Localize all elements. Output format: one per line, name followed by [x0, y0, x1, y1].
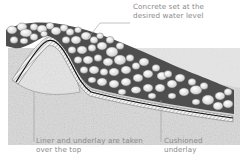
- label-underlay: Cushioned underlay: [164, 137, 203, 154]
- label-underlay-line2: underlay: [164, 146, 203, 155]
- pond-edge-diagram: Concrete set at the desired water level …: [0, 0, 240, 165]
- label-liner: Liner and underlay are taken over the to…: [36, 137, 143, 154]
- label-concrete-line2: desired water level: [133, 12, 204, 21]
- label-liner-line2: over the top: [36, 146, 143, 155]
- label-concrete: Concrete set at the desired water level: [133, 3, 204, 20]
